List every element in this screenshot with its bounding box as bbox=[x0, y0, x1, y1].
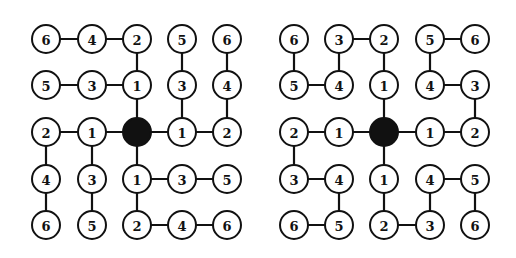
tree-node: 6 bbox=[461, 25, 489, 53]
tree-node: 1 bbox=[370, 165, 398, 193]
tree-node: 6 bbox=[461, 211, 489, 239]
tree-node: 5 bbox=[461, 165, 489, 193]
tree-node: 2 bbox=[280, 118, 308, 146]
node-label: 3 bbox=[425, 219, 434, 234]
tree-node: 3 bbox=[325, 25, 353, 53]
node-label: 3 bbox=[87, 173, 96, 188]
node-label: 4 bbox=[41, 173, 50, 188]
tree-node: 6 bbox=[280, 25, 308, 53]
tree-node: 2 bbox=[123, 211, 151, 239]
diagram-canvas: 642565313421124313565246 632565414321123… bbox=[0, 0, 516, 258]
tree-node: 4 bbox=[416, 165, 444, 193]
tree-node: 3 bbox=[416, 211, 444, 239]
node-label: 5 bbox=[41, 79, 50, 94]
root-node bbox=[370, 118, 398, 146]
tree-node: 2 bbox=[123, 25, 151, 53]
node-label: 3 bbox=[289, 173, 298, 188]
node-label: 1 bbox=[177, 126, 186, 141]
tree-node: 4 bbox=[213, 71, 241, 99]
tree-node: 5 bbox=[280, 71, 308, 99]
node-label: 4 bbox=[222, 79, 231, 94]
node-label: 6 bbox=[289, 219, 298, 234]
node-label: 2 bbox=[379, 219, 388, 234]
tree-node: 4 bbox=[325, 71, 353, 99]
tree-node: 1 bbox=[168, 118, 196, 146]
node-label: 2 bbox=[132, 219, 141, 234]
node-label: 3 bbox=[334, 33, 343, 48]
node-label: 4 bbox=[334, 79, 343, 94]
node-label: 5 bbox=[334, 219, 343, 234]
tree-node: 2 bbox=[370, 211, 398, 239]
node-label: 3 bbox=[177, 79, 186, 94]
node-label: 2 bbox=[132, 33, 141, 48]
node-label: 5 bbox=[87, 219, 96, 234]
node-label: 6 bbox=[289, 33, 298, 48]
node-label: 2 bbox=[289, 126, 298, 141]
node-label: 5 bbox=[470, 173, 479, 188]
node-label: 5 bbox=[177, 33, 186, 48]
tree-node: 3 bbox=[78, 71, 106, 99]
node-label: 1 bbox=[132, 173, 141, 188]
node-label: 2 bbox=[41, 126, 50, 141]
tree-node: 6 bbox=[213, 211, 241, 239]
node-label: 4 bbox=[87, 33, 96, 48]
node-label: 3 bbox=[470, 79, 479, 94]
root-node-circle bbox=[370, 118, 398, 146]
node-label: 4 bbox=[425, 173, 434, 188]
node-label: 4 bbox=[425, 79, 434, 94]
root-node bbox=[123, 118, 151, 146]
tree-node: 1 bbox=[123, 71, 151, 99]
tree-node: 5 bbox=[213, 165, 241, 193]
node-label: 1 bbox=[379, 79, 388, 94]
node-label: 5 bbox=[222, 173, 231, 188]
left-tree-graph: 642565313421124313565246 bbox=[32, 25, 241, 239]
tree-node: 4 bbox=[78, 25, 106, 53]
node-label: 3 bbox=[87, 79, 96, 94]
right-tree-graph: 632565414321123414565236 bbox=[280, 25, 489, 239]
tree-node: 2 bbox=[32, 118, 60, 146]
tree-node: 5 bbox=[168, 25, 196, 53]
node-label: 5 bbox=[425, 33, 434, 48]
node-label: 1 bbox=[379, 173, 388, 188]
tree-node: 1 bbox=[325, 118, 353, 146]
tree-node: 5 bbox=[78, 211, 106, 239]
tree-node: 1 bbox=[416, 118, 444, 146]
node-label: 3 bbox=[177, 173, 186, 188]
tree-node: 1 bbox=[370, 71, 398, 99]
tree-node: 3 bbox=[168, 71, 196, 99]
node-label: 5 bbox=[289, 79, 298, 94]
tree-node: 3 bbox=[78, 165, 106, 193]
tree-node: 3 bbox=[461, 71, 489, 99]
node-label: 2 bbox=[222, 126, 231, 141]
node-label: 6 bbox=[222, 219, 231, 234]
tree-node: 3 bbox=[280, 165, 308, 193]
node-label: 1 bbox=[87, 126, 96, 141]
node-label: 6 bbox=[41, 219, 50, 234]
tree-node: 6 bbox=[280, 211, 308, 239]
tree-node: 5 bbox=[32, 71, 60, 99]
node-label: 4 bbox=[177, 219, 186, 234]
tree-node: 3 bbox=[168, 165, 196, 193]
tree-node: 5 bbox=[416, 25, 444, 53]
tree-node: 2 bbox=[461, 118, 489, 146]
tree-node: 5 bbox=[325, 211, 353, 239]
tree-node: 4 bbox=[325, 165, 353, 193]
tree-node: 2 bbox=[213, 118, 241, 146]
tree-node: 4 bbox=[32, 165, 60, 193]
tree-node: 4 bbox=[168, 211, 196, 239]
tree-node: 6 bbox=[213, 25, 241, 53]
node-label: 6 bbox=[470, 33, 479, 48]
node-label: 4 bbox=[334, 173, 343, 188]
node-label: 6 bbox=[470, 219, 479, 234]
node-label: 1 bbox=[132, 79, 141, 94]
tree-node: 1 bbox=[78, 118, 106, 146]
tree-node: 2 bbox=[370, 25, 398, 53]
node-label: 1 bbox=[334, 126, 343, 141]
node-label: 2 bbox=[379, 33, 388, 48]
node-label: 6 bbox=[41, 33, 50, 48]
node-label: 6 bbox=[222, 33, 231, 48]
node-label: 1 bbox=[425, 126, 434, 141]
root-node-circle bbox=[123, 118, 151, 146]
tree-node: 6 bbox=[32, 25, 60, 53]
tree-node: 1 bbox=[123, 165, 151, 193]
